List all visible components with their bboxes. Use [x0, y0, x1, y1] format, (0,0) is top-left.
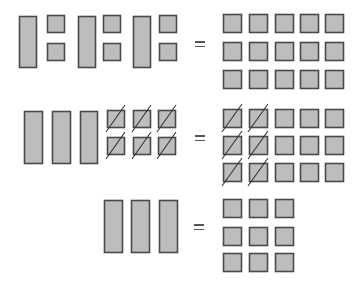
unit-tile-cancelled — [250, 110, 268, 128]
unit-tile-cancelled — [224, 110, 242, 128]
unit-tile — [301, 110, 319, 128]
unit-tile — [48, 16, 65, 33]
unit-tile-cancelled — [224, 164, 242, 182]
unit-tile — [326, 43, 344, 61]
long-tile — [53, 112, 71, 164]
unit-tile — [250, 200, 268, 218]
unit-tile — [301, 164, 319, 182]
equals-sign — [194, 224, 204, 230]
unit-tile — [301, 71, 319, 89]
unit-tile — [224, 228, 242, 246]
unit-tile — [224, 15, 242, 33]
unit-tile — [250, 15, 268, 33]
unit-tile — [224, 254, 242, 272]
long-tile — [25, 112, 43, 164]
long-tile — [20, 17, 37, 68]
unit-tile — [104, 44, 121, 61]
unit-tile — [326, 137, 344, 155]
unit-tile — [250, 43, 268, 61]
unit-tile — [301, 137, 319, 155]
unit-tile — [160, 44, 177, 61]
unit-tile — [326, 110, 344, 128]
unit-tile — [276, 71, 294, 89]
unit-tile — [276, 43, 294, 61]
unit-tile — [276, 15, 294, 33]
unit-tile — [250, 228, 268, 246]
long-tile — [134, 17, 151, 68]
algebra-tiles-diagram — [0, 0, 360, 285]
unit-tile — [301, 15, 319, 33]
unit-tile-cancelled — [134, 138, 151, 155]
unit-tile-cancelled — [224, 137, 242, 155]
unit-tile — [276, 164, 294, 182]
unit-tile-cancelled — [108, 111, 125, 128]
equals-sign — [195, 135, 205, 141]
unit-tile — [104, 16, 121, 33]
unit-tile-cancelled — [159, 138, 176, 155]
unit-tile-cancelled — [250, 137, 268, 155]
unit-tile — [250, 254, 268, 272]
unit-tile-cancelled — [108, 138, 125, 155]
unit-tile — [326, 164, 344, 182]
unit-tile — [224, 200, 242, 218]
unit-tile — [301, 43, 319, 61]
unit-tile-cancelled — [159, 111, 176, 128]
unit-tile — [276, 137, 294, 155]
unit-tile — [160, 16, 177, 33]
unit-tile-cancelled — [250, 164, 268, 182]
unit-tile — [224, 71, 242, 89]
unit-tile — [276, 200, 294, 218]
unit-tile — [276, 254, 294, 272]
unit-tile-cancelled — [134, 111, 151, 128]
long-tile — [79, 17, 96, 68]
equals-sign — [195, 41, 205, 47]
unit-tile — [276, 110, 294, 128]
unit-tile — [48, 44, 65, 61]
unit-tile — [326, 15, 344, 33]
long-tile — [81, 112, 98, 164]
long-tile — [132, 201, 150, 253]
unit-tile — [224, 43, 242, 61]
unit-tile — [276, 228, 294, 246]
long-tile — [160, 201, 178, 253]
unit-tile — [250, 71, 268, 89]
unit-tile — [326, 71, 344, 89]
long-tile — [105, 201, 123, 253]
